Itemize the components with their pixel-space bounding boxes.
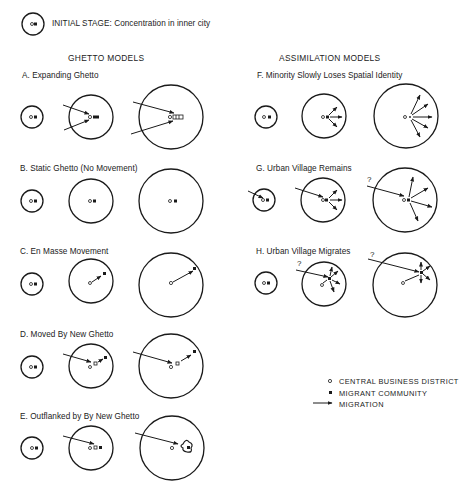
model-b-diagram — [21, 169, 203, 233]
model-c-diagram — [21, 253, 203, 317]
model-h-diagram — [255, 253, 437, 317]
question-mark-g: ? — [367, 175, 371, 184]
model-a-diagram — [21, 85, 203, 149]
question-mark-h-middle: ? — [297, 259, 301, 268]
initial-stage-label: INITIAL STAGE: Concentration in inner ci… — [52, 19, 210, 28]
question-mark-h-large: ? — [370, 250, 374, 259]
model-d-diagram — [21, 334, 203, 398]
model-e-diagram — [21, 416, 204, 480]
model-f-label: F. Minority Slowly Loses Spatial Identit… — [257, 71, 402, 80]
legend-migrant-label: MIGRANT COMMUNITY — [339, 389, 427, 398]
legend-migration-label: MIGRATION — [339, 400, 384, 409]
model-c-label: C. En Masse Movement — [20, 247, 108, 256]
model-g-label: G. Urban Village Remains — [256, 164, 352, 173]
model-f-diagram — [255, 84, 438, 148]
model-e-label: E. Outflanked by By New Ghetto — [20, 412, 139, 421]
model-g-diagram — [248, 168, 437, 232]
assimilation-models-heading: ASSIMILATION MODELS — [279, 53, 380, 63]
model-h-label: H. Urban Village Migrates — [256, 247, 350, 256]
model-d-label: D. Moved By New Ghetto — [20, 330, 113, 339]
initial-stage-icon — [22, 13, 44, 35]
model-a-label: A. Expanding Ghetto — [22, 71, 99, 80]
model-b-label: B. Static Ghetto (No Movement) — [20, 164, 138, 173]
legend-symbols — [313, 379, 332, 403]
ghetto-models-heading: GHETTO MODELS — [68, 53, 144, 63]
legend-cbd-label: CENTRAL BUSINESS DISTRICT — [339, 377, 459, 386]
